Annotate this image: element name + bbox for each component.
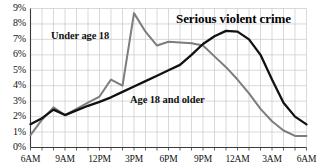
y-axis-tick-label: 7%	[0, 34, 26, 44]
x-axis-tick-label: 6AM	[290, 154, 320, 164]
x-axis-tick-label: 12PM	[83, 154, 117, 164]
y-axis-tick-label: 4%	[0, 80, 26, 90]
chart-title: Serious violent crime	[176, 11, 291, 27]
y-axis-tick-label: 2%	[0, 111, 26, 121]
x-axis-tick-label: 9AM	[48, 154, 82, 164]
x-axis-tick-label: 6PM	[152, 154, 186, 164]
x-axis-tick-label: 6AM	[14, 154, 48, 164]
serious-violent-crime-chart: Serious violent crime Under age 18 Age 1…	[0, 0, 319, 168]
y-axis-tick-label: 3%	[0, 96, 26, 106]
y-axis-tick-label: 6%	[0, 49, 26, 59]
y-axis-tick-label: 9%	[0, 3, 26, 13]
y-axis-tick-label: 0%	[0, 142, 26, 152]
x-axis-tick-label: 12AM	[221, 154, 255, 164]
x-axis-tick-label: 3AM	[255, 154, 289, 164]
x-axis-tick-label: 3PM	[117, 154, 151, 164]
x-axis-tick-label: 9PM	[186, 154, 220, 164]
series-label-age-18-and-older: Age 18 and older	[130, 94, 205, 105]
y-axis-tick-label: 8%	[0, 18, 26, 28]
y-axis-tick-label: 1%	[0, 127, 26, 137]
y-axis-tick-label: 5%	[0, 65, 26, 75]
series-label-under-age-18: Under age 18	[51, 30, 109, 41]
